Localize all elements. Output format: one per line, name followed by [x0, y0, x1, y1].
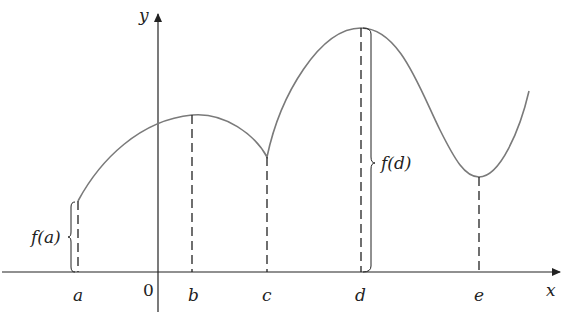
tick-label-a: a	[73, 285, 83, 305]
tick-label-b: b	[188, 285, 199, 305]
tick-label-e: e	[474, 285, 484, 305]
annotation-fa: f(a)	[29, 227, 61, 247]
annotation-fd: f(d)	[379, 153, 411, 173]
tick-label-c: c	[262, 285, 272, 305]
tick-label-d: d	[355, 285, 366, 305]
function-curve	[78, 28, 529, 201]
brace-fa	[68, 202, 75, 272]
x-axis-label: x	[546, 280, 556, 300]
origin-label: 0	[143, 280, 154, 300]
y-axis-label: y	[138, 5, 149, 25]
function-extrema-diagram: y x 0 a b c d e f(a) f(d)	[0, 0, 563, 312]
brace-fd	[363, 28, 375, 272]
